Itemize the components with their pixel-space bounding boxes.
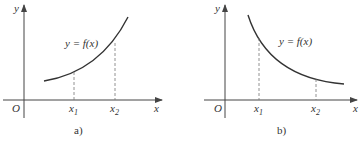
y-axis-label: y: [214, 2, 220, 14]
panel-caption: a): [74, 124, 83, 137]
origin-label: O: [214, 102, 222, 114]
x2-label: x2: [310, 102, 320, 117]
curve-label: y = f(x): [64, 37, 98, 50]
x-axis-label: x: [153, 102, 159, 114]
x1-label: x1: [253, 102, 263, 117]
function-monotonicity-diagram: y O x x1 x2 y = f(x) a) y O x x1 x2 y = …: [0, 0, 364, 142]
origin-label: O: [12, 102, 20, 114]
panel-caption: b): [277, 124, 287, 137]
decreasing-curve: [248, 15, 344, 84]
x2-label: x2: [109, 102, 119, 117]
y-axis-label: y: [13, 2, 19, 14]
panel-b: y O x x1 x2 y = f(x) b): [204, 2, 358, 137]
curve-label: y = f(x): [278, 35, 312, 48]
panel-a: y O x x1 x2 y = f(x) a): [3, 2, 162, 137]
x1-label: x1: [68, 102, 78, 117]
x-axis-label: x: [352, 102, 358, 114]
